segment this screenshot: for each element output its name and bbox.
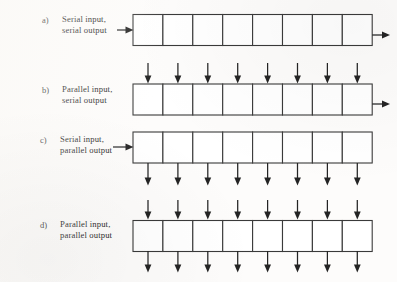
input-arrow [324, 200, 331, 220]
input-arrow [294, 200, 301, 220]
serial-input-arrow-a [117, 27, 134, 34]
register-cell [253, 15, 283, 46]
output-arrow [234, 251, 241, 273]
input-arrow [145, 63, 152, 84]
register-cells-a [133, 15, 372, 46]
output-arrow [324, 251, 331, 273]
parallel-input-arrows-b [145, 63, 361, 84]
diagram-row-a: a) Serial input, serial output [0, 0, 397, 60]
register-cell [163, 15, 193, 46]
diagram-row-d: d) Parallel input, parallel output [0, 196, 397, 282]
output-arrow [264, 163, 271, 186]
register-cell [193, 15, 223, 46]
output-arrow [145, 163, 152, 186]
row-c-artwork [0, 126, 397, 194]
output-arrow [324, 163, 331, 186]
output-arrow [354, 251, 361, 273]
register-cell [193, 132, 223, 163]
register-cell [163, 84, 193, 115]
register-cell [342, 84, 372, 115]
input-arrow [145, 200, 152, 220]
output-arrow [264, 251, 271, 273]
input-arrow [204, 200, 211, 220]
serial-input-arrow-c [113, 144, 134, 151]
register-cell [253, 84, 283, 115]
register-cell [193, 84, 223, 115]
row-a-artwork [0, 0, 397, 60]
output-arrow [204, 163, 211, 186]
shift-register-figure: a) Serial input, serial output [0, 0, 397, 282]
input-arrow [294, 63, 301, 84]
output-arrow [145, 251, 152, 273]
register-cell [223, 15, 253, 46]
input-arrow [234, 63, 241, 84]
register-cell [312, 132, 342, 163]
parallel-input-arrows-d [145, 200, 361, 220]
register-cell [133, 84, 163, 115]
register-cell [133, 221, 163, 252]
register-cells-d [133, 221, 372, 252]
register-cell [312, 221, 342, 252]
serial-output-arrow-a [372, 32, 390, 39]
output-arrow [234, 163, 241, 186]
register-cell [342, 132, 372, 163]
input-arrow [354, 63, 361, 84]
register-cells-b [133, 84, 372, 115]
input-arrow [234, 200, 241, 220]
output-arrow [175, 163, 182, 186]
register-cell [133, 132, 163, 163]
register-cell [163, 221, 193, 252]
register-cell [133, 15, 163, 46]
output-arrow [354, 163, 361, 186]
register-cell [283, 84, 313, 115]
register-cell [223, 221, 253, 252]
register-cell [312, 15, 342, 46]
output-arrow [294, 251, 301, 273]
register-cell [283, 221, 313, 252]
input-arrow [264, 63, 271, 84]
register-cell [193, 221, 223, 252]
register-cell [253, 221, 283, 252]
input-arrow [264, 200, 271, 220]
parallel-output-arrows-d [145, 251, 361, 273]
register-cell [223, 84, 253, 115]
parallel-output-arrows-c [145, 163, 361, 186]
input-arrow [324, 63, 331, 84]
register-cell [163, 132, 193, 163]
register-cell [223, 132, 253, 163]
serial-output-arrow-b [372, 101, 390, 108]
output-arrow [204, 251, 211, 273]
input-arrow [175, 63, 182, 84]
register-cells-c [133, 132, 372, 163]
register-cell [253, 132, 283, 163]
output-arrow [294, 163, 301, 186]
input-arrow [354, 200, 361, 220]
register-cell [342, 221, 372, 252]
row-b-artwork [0, 58, 397, 120]
diagram-row-b: b) Parallel input, serial output [0, 58, 397, 120]
register-cell [312, 84, 342, 115]
input-arrow [204, 63, 211, 84]
register-cell [283, 132, 313, 163]
diagram-row-c: c) Serial input, parallel output [0, 126, 397, 194]
register-cell [283, 15, 313, 46]
input-arrow [175, 200, 182, 220]
output-arrow [175, 251, 182, 273]
register-cell [342, 15, 372, 46]
row-d-artwork [0, 196, 397, 282]
